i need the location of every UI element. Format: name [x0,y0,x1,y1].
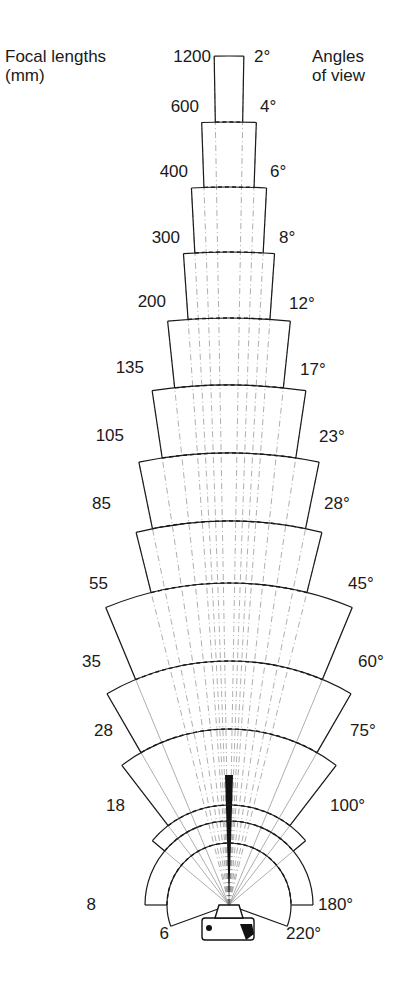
view-ray-line [229,188,267,905]
band-dashed-arc-28 [141,729,317,753]
band-side-edge-85 [307,532,322,592]
angle-of-view-label: 45° [348,575,374,593]
focal-length-label: 1200 [173,48,211,66]
band-side-edge-18 [152,841,164,851]
band-dashed-arc-35 [136,661,323,680]
central-ray-wedge [225,775,233,905]
band-side-edge-105 [306,462,320,529]
angle-of-view-label: 2° [254,48,270,66]
angle-of-view-label: 12° [289,295,315,313]
band-dashed-arc-55 [151,583,307,593]
focal-length-label: 85 [92,495,111,513]
band-side-edge-600 [202,122,204,187]
angle-of-view-label: 4° [260,98,276,116]
band-side-edge-1200 [243,56,244,122]
focal-length-label: 105 [96,427,124,445]
angle-of-view-label: 60° [358,653,384,671]
band-side-edge-135 [296,391,306,458]
band-side-edge-18 [293,841,305,851]
angle-of-view-label: 28° [324,495,350,513]
band-side-edge-85 [136,532,151,592]
view-ray-line [202,122,229,905]
angle-of-view-label: 220° [286,925,321,943]
band-side-edge-300 [183,254,188,320]
band-outer-arc-55 [106,583,352,608]
camera-icon [202,905,254,940]
focal-length-label: 600 [171,98,199,116]
focal-length-label: 18 [106,797,125,815]
view-ray-line [191,188,229,905]
focal-length-label: 6 [160,925,169,943]
focal-length-label: 200 [138,293,166,311]
angle-of-view-label: 8° [279,229,295,247]
band-side-edge-300 [270,254,275,320]
angle-of-view-label: 180° [318,896,353,914]
focal-length-label: 55 [89,575,108,593]
band-side-edge-55 [322,608,352,680]
band-outer-arc-200 [168,318,291,321]
angle-of-view-label: 17° [300,361,326,379]
focal-length-label: 8 [87,896,96,914]
band-side-edge-1200 [214,56,215,122]
angle-of-view-label: 100° [330,797,365,815]
band-side-edge-600 [254,122,256,187]
band-side-edge-400 [263,188,266,253]
band-outer-arc-400 [191,187,266,188]
view-ray-line [229,391,306,905]
band-side-edge-200 [283,321,290,388]
band-side-edge-35 [317,694,351,753]
focal-length-label: 35 [82,653,101,671]
band-side-edge-135 [152,391,162,458]
focal-length-label: 135 [116,359,144,377]
band-side-edge-400 [191,188,194,253]
band-outer-arc-28 [122,729,336,765]
angle-of-view-label: 6° [270,163,286,181]
focal-length-label: 400 [160,163,188,181]
view-ray-line [168,321,229,905]
band-side-edge-28 [122,765,168,825]
view-ray-line [229,321,290,905]
band-side-edge-105 [139,462,153,529]
focal-length-label: 300 [152,229,180,247]
angle-of-view-label: 23° [319,428,345,446]
view-ray-line [229,122,256,905]
view-ray-line [152,391,229,905]
band-side-edge-200 [168,321,175,388]
focal-length-label: 28 [94,722,113,740]
band-outer-arc-35 [107,661,351,694]
angle-of-view-label: 75° [350,722,376,740]
band-side-edge-55 [106,608,136,680]
